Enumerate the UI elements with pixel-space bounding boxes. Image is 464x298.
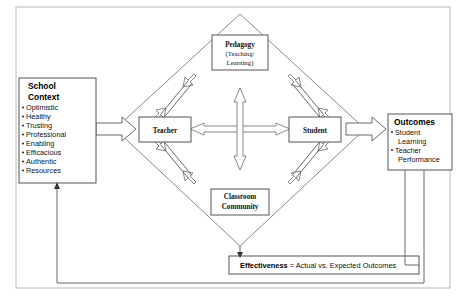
school-context-bullet-0: Optimistic bbox=[26, 103, 58, 112]
school-context-bullet-1: Healthy bbox=[26, 112, 51, 121]
framework-diagram: School Context Optimistic Healthy Trusti… bbox=[0, 0, 464, 298]
bullet-dot-4 bbox=[22, 143, 24, 145]
classroom-community-line2: Community bbox=[222, 203, 259, 211]
pedagogy-label: Pedagogy bbox=[225, 41, 255, 49]
outcomes-bullet-dot-1 bbox=[391, 149, 393, 151]
effectiveness-text-group: Effectiveness = Actual vs. Expected Outc… bbox=[240, 261, 397, 270]
classroom-student-shaft-b bbox=[292, 142, 320, 176]
pedagogy-sub-line1: (Teaching/ bbox=[226, 50, 255, 58]
bullet-dot-1 bbox=[22, 116, 24, 118]
pedagogy-sub-line2: Learning) bbox=[227, 59, 254, 67]
bullet-dot-7 bbox=[22, 170, 24, 172]
outcomes-bullet-1-line1: Teacher bbox=[395, 146, 422, 155]
core-to-outcomes-block-arrow bbox=[346, 117, 386, 141]
school-context-heading-line2: Context bbox=[28, 92, 59, 102]
classroom-community-line1: Classroom bbox=[224, 193, 257, 201]
school-context-bullet-5: Efficacious bbox=[26, 148, 62, 157]
school-context-bullet-6: Authentic bbox=[26, 157, 57, 166]
bullet-dot-3 bbox=[22, 134, 24, 136]
pedagogy-student-shaft-a bbox=[296, 81, 324, 115]
school-to-core-block-arrow bbox=[96, 117, 136, 141]
teacher-classroom-shaft-a bbox=[161, 145, 189, 179]
school-context-bullet-3: Professional bbox=[26, 130, 67, 139]
student-label: Student bbox=[303, 127, 328, 135]
outcomes-heading: Outcomes bbox=[394, 117, 435, 127]
bullet-dot-0 bbox=[22, 107, 24, 109]
teacher-pedagogy-shaft-b bbox=[164, 84, 192, 118]
outcomes-bullet-dot-0 bbox=[391, 131, 393, 133]
effectiveness-rest-text: = Actual vs. Expected Outcomes bbox=[288, 261, 397, 270]
teacher-pedagogy-shaft-a bbox=[161, 81, 189, 115]
school-context-bullet-2: Trusting bbox=[26, 121, 52, 130]
school-context-bullet-7: Resources bbox=[26, 166, 61, 175]
bullet-dot-6 bbox=[22, 161, 24, 163]
effectiveness-bold-text: Effectiveness bbox=[240, 261, 288, 270]
outcomes-bullet-0-line1: Student bbox=[395, 128, 420, 137]
outcomes-bullet-1-line2: Performance bbox=[398, 155, 440, 164]
bullet-dot-5 bbox=[22, 152, 24, 154]
teacher-label: Teacher bbox=[153, 127, 178, 135]
school-context-bullet-4: Enabling bbox=[26, 139, 54, 148]
teacher-classroom-shaft-b bbox=[164, 142, 192, 176]
classroom-student-shaft-a bbox=[296, 145, 324, 179]
school-context-heading-line1: School bbox=[28, 81, 56, 91]
pedagogy-student-shaft-b bbox=[292, 84, 320, 118]
bullet-dot-2 bbox=[22, 125, 24, 127]
outcomes-bullet-0-line2: Learning bbox=[398, 137, 426, 146]
framework-svg-canvas: School Context Optimistic Healthy Trusti… bbox=[0, 0, 464, 298]
